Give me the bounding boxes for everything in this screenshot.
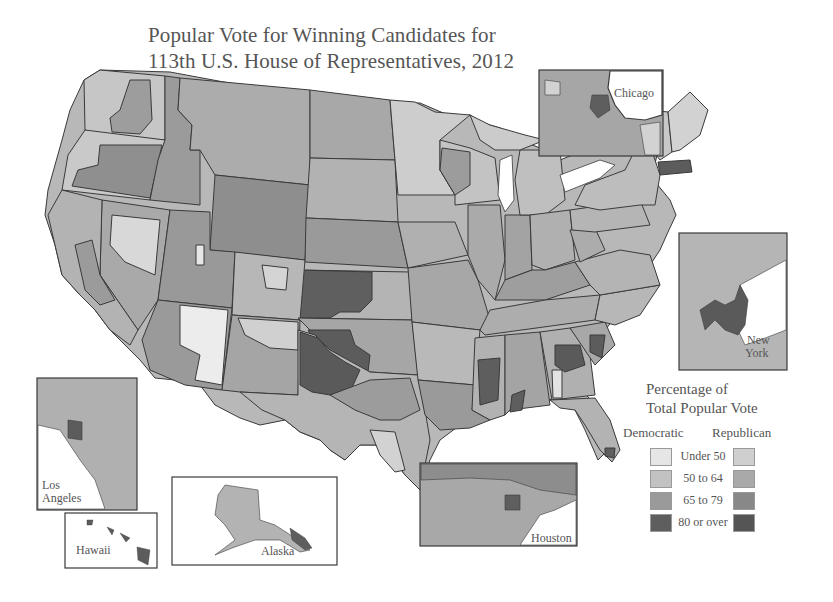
legend-democratic-heading: Democratic	[623, 425, 684, 441]
legend-row: Under 50	[650, 448, 755, 468]
swatch-dem-50-64	[650, 470, 672, 488]
legend-row: 50 to 64	[650, 470, 755, 490]
district-co-denver	[262, 265, 288, 290]
state-maine	[668, 92, 708, 152]
district-ks-west	[298, 270, 372, 318]
legend-row-label: Under 50	[673, 449, 733, 464]
swatch-rep-50-64	[733, 470, 755, 488]
state-michigan-lp	[515, 150, 565, 215]
legend-title-line-1: Percentage of	[646, 380, 758, 399]
chicago-label: Chicago	[614, 86, 654, 101]
state-nebraska	[305, 218, 408, 268]
state-arkansas	[412, 322, 480, 385]
swatch-dem-under-50	[650, 448, 672, 466]
district-fl-south	[605, 448, 615, 458]
swatch-dem-80-over	[650, 514, 672, 532]
new-york-label-2: York	[745, 346, 768, 361]
state-wyoming	[210, 175, 310, 260]
legend-row: 80 or over	[650, 514, 755, 534]
legend-title: Percentage of Total Popular Vote	[646, 380, 758, 418]
legend-title-line-2: Total Popular Vote	[646, 399, 758, 418]
state-north-dakota	[310, 90, 395, 160]
los-angeles-label-2: Angeles	[42, 491, 81, 506]
swatch-rep-65-79	[733, 492, 755, 510]
state-indiana	[505, 215, 532, 280]
swatch-dem-65-79	[650, 492, 672, 510]
houston-core	[505, 495, 520, 510]
houston-label: Houston	[531, 531, 572, 546]
state-ohio	[530, 210, 575, 270]
legend-row-label: 80 or over	[673, 515, 733, 530]
legend-row-label: 65 to 79	[673, 493, 733, 508]
state-massachusetts	[658, 160, 692, 175]
district-ga-sw	[552, 370, 562, 398]
legend-row: 65 to 79	[650, 492, 755, 512]
swatch-rep-80-over	[733, 514, 755, 532]
legend-row-label: 50 to 64	[673, 471, 733, 486]
state-south-dakota	[306, 158, 398, 222]
swatch-rep-under-50	[733, 448, 755, 466]
district-ut-slc	[196, 245, 204, 265]
legend-republican-heading: Republican	[712, 425, 771, 441]
la-dark	[68, 420, 82, 440]
hawaii-label: Hawaii	[76, 543, 111, 558]
district-ms-delta	[478, 358, 500, 405]
alaska-label: Alaska	[261, 544, 294, 559]
